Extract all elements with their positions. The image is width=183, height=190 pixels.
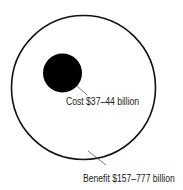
benefit-leader-line <box>88 151 106 165</box>
cost-circle <box>43 54 82 93</box>
benefit-circle <box>12 16 156 160</box>
cost-label: Cost $37–44 billion <box>66 97 139 107</box>
benefit-label: Benefit $157–777 billion <box>83 174 175 184</box>
cost-leader-line <box>77 86 87 95</box>
cost-benefit-diagram <box>0 0 183 190</box>
